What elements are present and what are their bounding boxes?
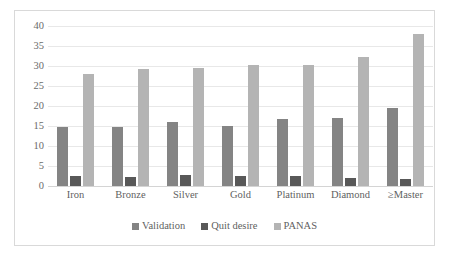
bar-quit-desire-silver [180,175,191,186]
x-axis-tick-label: Silver [173,189,198,202]
bar-quit-desire-diamond [345,178,356,186]
bar-group [48,26,103,186]
bar-validation-platinum [277,119,288,186]
legend-item-panas[interactable]: PANAS [274,221,317,232]
legend-label: Quit desire [211,221,257,232]
y-axis-tick-label: 5 [14,161,44,172]
bar-quit-desire-iron [70,176,81,186]
bar-validation-bronze [112,127,123,186]
x-axis-tick-label: ≥Master [388,189,423,202]
bar-group [158,26,213,186]
bar-group [268,26,323,186]
y-axis-tick-label: 40 [14,21,44,32]
x-axis-tick-label: Diamond [331,189,370,202]
x-axis-tick-label: Iron [67,189,85,202]
chart-figure: 0510152025303540 IronBronzeSilverGoldPla… [0,0,449,256]
legend-item-validation[interactable]: Validation [132,221,185,232]
bar-group [103,26,158,186]
bar-group [323,26,378,186]
y-axis-tick-label: 35 [14,41,44,52]
bar-group [378,26,433,186]
y-axis-tick-label: 25 [14,81,44,92]
x-axis-tick-label: Platinum [277,189,315,202]
legend-label: Validation [142,221,185,232]
bar-validation-silver [167,122,178,186]
plot-area [48,26,433,186]
legend-item-quit-desire[interactable]: Quit desire [201,221,257,232]
bar-panas-iron [83,74,94,186]
x-axis-tick-label: Gold [230,189,251,202]
y-axis-tick-label: 15 [14,121,44,132]
x-axis-tick-labels: IronBronzeSilverGoldPlatinumDiamond≥Mast… [48,189,433,207]
bar-quit-desire-gold [235,176,246,186]
legend-swatch-icon [132,223,139,230]
bar-panas-silver [193,68,204,186]
bar-validation-diamond [332,118,343,186]
y-axis-tick-label: 30 [14,61,44,72]
bar-validation-iron [57,127,68,186]
y-axis-tick-labels: 0510152025303540 [14,26,44,186]
bar-validation-gold [222,126,233,186]
y-axis-tick-label: 10 [14,141,44,152]
bar-panas-platinum [303,65,314,186]
bar-quit-desire-platinum [290,176,301,186]
bar-panas-gold [248,65,259,186]
bar-group [213,26,268,186]
y-axis-tick-label: 0 [14,181,44,192]
legend-label: PANAS [284,221,317,232]
legend-swatch-icon [201,223,208,230]
x-axis-tick-label: Bronze [115,189,145,202]
bar-panas-master [413,34,424,186]
y-axis-tick-label: 20 [14,101,44,112]
bar-panas-bronze [138,69,149,186]
legend-swatch-icon [274,223,281,230]
chart-legend: ValidationQuit desirePANAS [14,221,435,232]
bar-panas-diamond [358,57,369,186]
gridline [48,186,433,187]
bar-quit-desire-master [400,179,411,186]
bar-validation-master [387,108,398,186]
bar-quit-desire-bronze [125,177,136,186]
